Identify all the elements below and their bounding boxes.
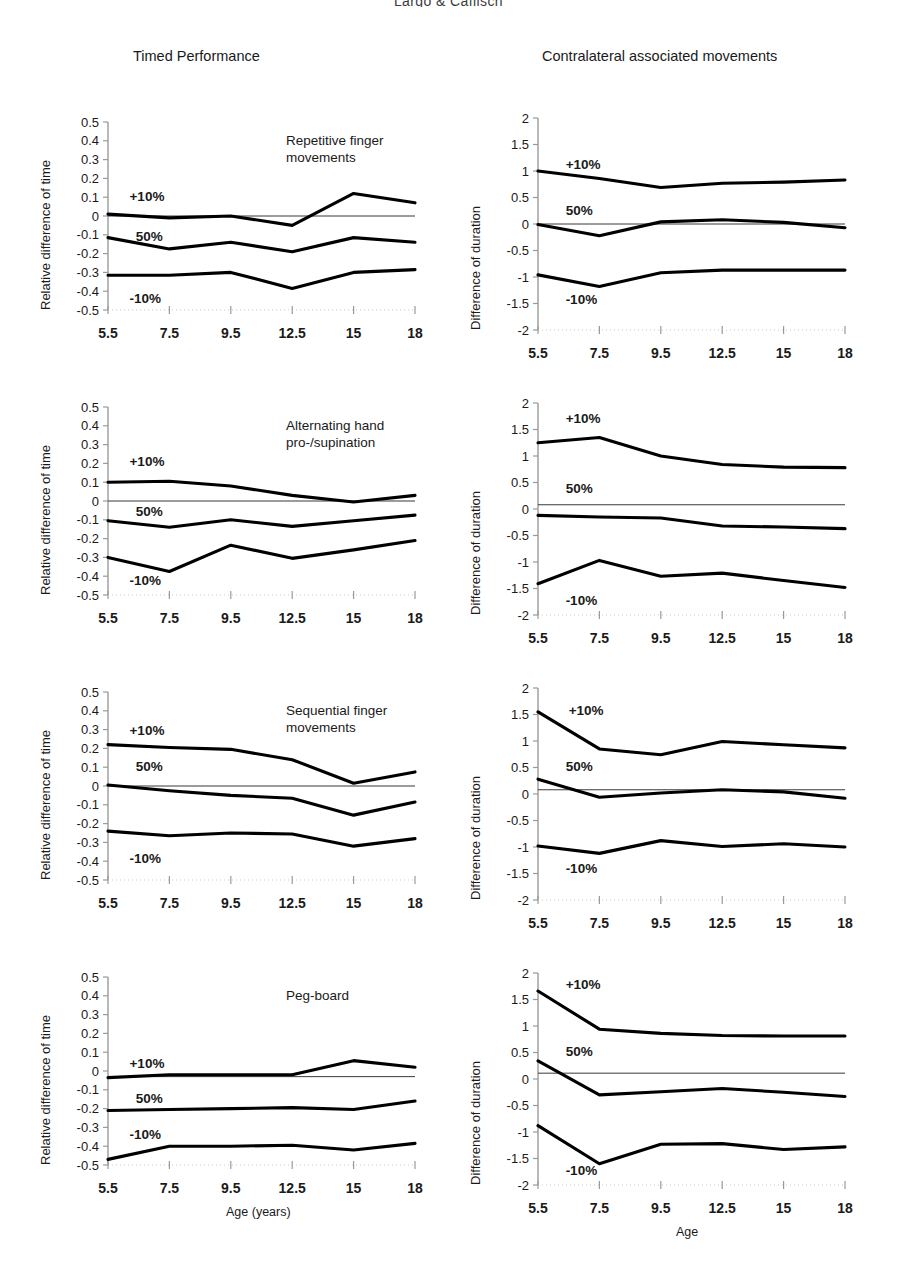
y-tick-label: -1.5 — [507, 296, 529, 311]
y-tick-label: 0.3 — [81, 437, 99, 452]
x-tick-label: 15 — [776, 915, 792, 931]
x-tick-label: 12.5 — [709, 345, 736, 361]
y-tick-label: 0.1 — [81, 190, 99, 205]
x-tick-label: 7.5 — [590, 915, 610, 931]
series-annotation: 50% — [136, 759, 163, 774]
x-tick-label: 18 — [837, 915, 853, 931]
chart-plot-repetitive-finger-movements-timed: 0.50.40.30.20.10-0.1-0.2-0.3-0.4-0.55.57… — [20, 104, 450, 379]
y-tick-label: -0.4 — [77, 1139, 99, 1154]
y-tick-label: 0.5 — [511, 760, 529, 775]
x-tick-label: 9.5 — [221, 895, 241, 911]
chart-alternating-hand-pro-supination-contralateral: 21.510.50-0.5-1-1.5-25.57.59.512.51518+1… — [450, 389, 880, 664]
x-tick-label: 7.5 — [160, 895, 180, 911]
y-tick-label: -0.2 — [77, 246, 99, 261]
y-tick-label: -1.5 — [507, 866, 529, 881]
y-tick-label: -1.5 — [507, 581, 529, 596]
series-line-10 — [108, 831, 415, 846]
chart-plot-alternating-hand-pro-supination-timed: 0.50.40.30.20.10-0.1-0.2-0.3-0.4-0.55.57… — [20, 389, 450, 664]
y-tick-label: 0 — [92, 209, 99, 224]
series-annotation: +10% — [569, 703, 604, 718]
y-tick-label: 0 — [92, 494, 99, 509]
y-tick-label: 0 — [522, 217, 529, 232]
series-annotation: +10% — [129, 723, 164, 738]
x-tick-label: 12.5 — [709, 915, 736, 931]
y-tick-label: 0.5 — [81, 400, 99, 415]
y-axis-label: Relative difference of time — [38, 445, 53, 595]
y-tick-label: 0.4 — [81, 418, 99, 433]
y-tick-label: 0 — [522, 502, 529, 517]
series-annotation: 50% — [136, 1091, 163, 1106]
x-tick-label: 7.5 — [590, 630, 610, 646]
y-tick-label: -2 — [517, 893, 529, 908]
series-line-10 — [538, 1126, 845, 1164]
y-tick-label: -1 — [517, 270, 529, 285]
chart-sequential-finger-movements-contralateral: 21.510.50-0.5-1-1.5-25.57.59.512.51518+1… — [450, 674, 880, 949]
x-tick-label: 15 — [776, 1200, 792, 1216]
series-annotation: 50% — [566, 759, 593, 774]
y-axis-label: Difference of duration — [468, 776, 483, 900]
chart-peg-board-contralateral: 21.510.50-0.5-1-1.5-25.57.59.512.51518+1… — [450, 959, 880, 1234]
y-axis-label: Relative difference of time — [38, 730, 53, 880]
chart-plot-repetitive-finger-movements-contralateral: 21.510.50-0.5-1-1.5-25.57.59.512.51518+1… — [450, 104, 880, 379]
chart-plot-alternating-hand-pro-supination-contralateral: 21.510.50-0.5-1-1.5-25.57.59.512.51518+1… — [450, 389, 880, 664]
series-line-50 — [538, 515, 845, 528]
series-annotation: -10% — [129, 851, 161, 866]
x-tick-label: 18 — [407, 610, 423, 626]
y-tick-label: -0.5 — [77, 873, 99, 888]
y-tick-label: -0.5 — [77, 1158, 99, 1173]
y-tick-label: 0.3 — [81, 152, 99, 167]
y-tick-label: -0.3 — [77, 835, 99, 850]
x-tick-label: 9.5 — [651, 345, 671, 361]
series-line-10 — [538, 991, 845, 1036]
chart-plot-peg-board-timed: 0.50.40.30.20.10-0.1-0.2-0.3-0.4-0.55.57… — [20, 959, 450, 1234]
series-line-10 — [108, 481, 415, 502]
y-tick-label: -0.5 — [507, 1098, 529, 1113]
x-tick-label: 7.5 — [160, 1180, 180, 1196]
y-tick-label: -1 — [517, 840, 529, 855]
series-annotation: +10% — [566, 977, 601, 992]
x-tick-label: 7.5 — [160, 610, 180, 626]
series-annotation: -10% — [566, 593, 598, 608]
y-tick-label: 1.5 — [511, 707, 529, 722]
y-tick-label: 0.5 — [511, 1045, 529, 1060]
y-tick-label: -0.2 — [77, 816, 99, 831]
y-tick-label: 0.4 — [81, 988, 99, 1003]
y-tick-label: -0.3 — [77, 550, 99, 565]
x-tick-label: 5.5 — [528, 915, 548, 931]
x-tick-label: 9.5 — [221, 1180, 241, 1196]
y-axis-label: Difference of duration — [468, 1061, 483, 1185]
y-axis-label: Difference of duration — [468, 206, 483, 330]
y-tick-label: 1.5 — [511, 422, 529, 437]
series-line-50 — [538, 220, 845, 236]
series-annotation: +10% — [129, 1056, 164, 1071]
y-tick-label: 1 — [522, 734, 529, 749]
y-axis-label: Relative difference of time — [38, 160, 53, 310]
chart-plot-peg-board-contralateral: 21.510.50-0.5-1-1.5-25.57.59.512.51518+1… — [450, 959, 880, 1234]
x-tick-label: 12.5 — [279, 610, 306, 626]
x-tick-label: 5.5 — [98, 1180, 118, 1196]
x-tick-label: 7.5 — [160, 325, 180, 341]
series-line-10 — [538, 841, 845, 854]
series-line-10 — [108, 540, 415, 571]
y-tick-label: -0.3 — [77, 1120, 99, 1135]
series-annotation: 50% — [136, 229, 163, 244]
chart-alternating-hand-pro-supination-timed: 0.50.40.30.20.10-0.1-0.2-0.3-0.4-0.55.57… — [20, 389, 450, 664]
chart-peg-board-timed: 0.50.40.30.20.10-0.1-0.2-0.3-0.4-0.55.57… — [20, 959, 450, 1234]
x-tick-label: 12.5 — [279, 1180, 306, 1196]
y-tick-label: 0.2 — [81, 741, 99, 756]
y-tick-label: -2 — [517, 323, 529, 338]
chart-title: Sequential finger movements — [286, 702, 387, 736]
x-tick-label: 9.5 — [221, 325, 241, 341]
y-tick-label: -0.5 — [507, 243, 529, 258]
y-tick-label: 0.3 — [81, 1007, 99, 1022]
x-tick-label: 9.5 — [651, 915, 671, 931]
y-tick-label: 0 — [92, 779, 99, 794]
y-tick-label: -0.4 — [77, 284, 99, 299]
y-tick-label: -0.5 — [507, 813, 529, 828]
y-tick-label: -0.3 — [77, 265, 99, 280]
y-tick-label: -1 — [517, 555, 529, 570]
chart-repetitive-finger-movements-timed: 0.50.40.30.20.10-0.1-0.2-0.3-0.4-0.55.57… — [20, 104, 450, 379]
y-tick-label: 0.5 — [511, 190, 529, 205]
x-tick-label: 18 — [407, 895, 423, 911]
series-annotation: +10% — [129, 454, 164, 469]
